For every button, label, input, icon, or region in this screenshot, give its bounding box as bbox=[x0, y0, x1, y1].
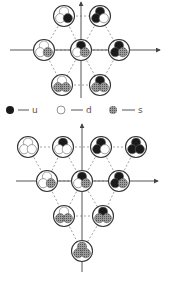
s-quark-icon bbox=[43, 48, 52, 57]
s-quark-icon bbox=[63, 214, 72, 223]
legend-item-d bbox=[57, 106, 83, 114]
d-quark-icon bbox=[100, 145, 109, 154]
baryon-particle bbox=[90, 75, 111, 96]
u-quark-icon bbox=[63, 14, 72, 23]
baryon-particle bbox=[109, 171, 130, 192]
s-quark-icon bbox=[80, 48, 89, 57]
baryon-particle bbox=[18, 137, 39, 158]
baryon-particle bbox=[54, 6, 75, 27]
baryon-particle bbox=[72, 241, 93, 262]
s-quark-icon bbox=[61, 83, 70, 92]
baryon-particle bbox=[93, 206, 114, 227]
baryon-particle bbox=[37, 171, 58, 192]
baryon-particle bbox=[34, 40, 55, 61]
legend-label-d: d bbox=[86, 105, 92, 115]
u-quark-icon bbox=[135, 145, 144, 154]
baryon-particle bbox=[91, 137, 112, 158]
legend-label-s: s bbox=[138, 105, 143, 115]
baryon-particle bbox=[90, 6, 111, 27]
baryon-particle bbox=[52, 75, 73, 96]
legend-item-u bbox=[6, 106, 29, 114]
octet-diagram bbox=[10, 2, 160, 98]
baryon-diagrams bbox=[0, 0, 169, 282]
d-quark-icon bbox=[99, 14, 108, 23]
u-quark-icon bbox=[6, 106, 14, 114]
d-quark-icon bbox=[27, 145, 36, 154]
legend bbox=[6, 106, 135, 114]
s-quark-icon bbox=[81, 249, 90, 258]
baryon-particle bbox=[71, 40, 92, 61]
s-quark-icon bbox=[109, 106, 117, 114]
legend-item-s bbox=[109, 106, 135, 114]
baryon-particle bbox=[109, 40, 130, 61]
s-quark-icon bbox=[102, 214, 111, 223]
baryon-particle bbox=[126, 137, 147, 158]
s-quark-icon bbox=[46, 179, 55, 188]
s-quark-icon bbox=[118, 179, 127, 188]
d-quark-icon bbox=[62, 145, 71, 154]
decuplet-diagram bbox=[16, 124, 158, 272]
s-quark-icon bbox=[81, 179, 90, 188]
baryon-particle bbox=[72, 171, 93, 192]
baryon-particle bbox=[53, 137, 74, 158]
baryon-particle bbox=[54, 206, 75, 227]
legend-label-u: u bbox=[32, 105, 38, 115]
s-quark-icon bbox=[118, 48, 127, 57]
d-quark-icon bbox=[57, 106, 65, 114]
s-quark-icon bbox=[99, 83, 108, 92]
